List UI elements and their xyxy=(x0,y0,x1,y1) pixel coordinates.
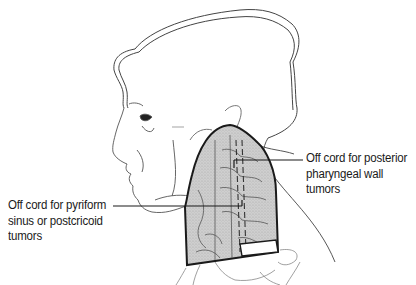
annotation-line: tumors xyxy=(8,229,106,245)
annotation-line: pharyngeal wall xyxy=(306,167,407,183)
annotation-line: Off cord for pyriform xyxy=(8,198,106,214)
annotation-line: sinus or postcricoid xyxy=(8,214,106,230)
annotation-posterior-pharyngeal-wall: Off cord for posterior pharyngeal wall t… xyxy=(306,151,407,198)
annotation-pyriform-sinus: Off cord for pyriform sinus or postcrico… xyxy=(8,198,106,245)
annotation-line: Off cord for posterior xyxy=(306,151,407,167)
face-profile xyxy=(113,103,190,213)
annotation-line: tumors xyxy=(306,182,407,198)
